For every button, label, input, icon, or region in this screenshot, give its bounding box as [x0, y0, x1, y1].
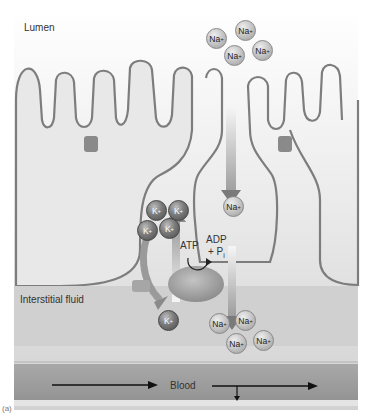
blood-label: Blood: [170, 380, 196, 391]
na-ion: Na+: [235, 20, 256, 41]
pi-label: + Pi: [208, 246, 225, 259]
atp-label: ATP: [180, 240, 199, 251]
tight-junction-right: [278, 136, 292, 152]
k-ion: K+: [146, 200, 167, 221]
na-ion-interstitial: Na+: [235, 310, 256, 331]
na-k-atpase-pump: [168, 266, 224, 302]
na-ion-interstitial: Na+: [209, 313, 230, 334]
na-ion-interstitial: Na+: [253, 330, 274, 351]
na-ion-interstitial: Na+: [226, 333, 247, 354]
na-ion: Na+: [206, 28, 227, 49]
tight-junction-left: [84, 136, 98, 152]
lumen-label: Lumen: [24, 22, 55, 33]
interstitial-fluid-label: Interstitial fluid: [20, 294, 84, 305]
k-ion: K+: [137, 220, 158, 241]
adp-label: ADP: [206, 234, 227, 245]
na-channel: [226, 106, 236, 196]
na-ion-intracellular: Na+: [223, 196, 244, 217]
k-ion-interstitial: K+: [158, 310, 179, 331]
na-ion: Na+: [224, 45, 245, 66]
k-ion: K+: [159, 218, 180, 239]
na-basolateral-channel: [228, 246, 236, 318]
panel-label: (a): [2, 404, 12, 413]
na-k-transport-diagram: Lumen Interstitial fluid Blood ATP ADP +…: [0, 0, 372, 418]
na-ion: Na+: [252, 40, 273, 61]
